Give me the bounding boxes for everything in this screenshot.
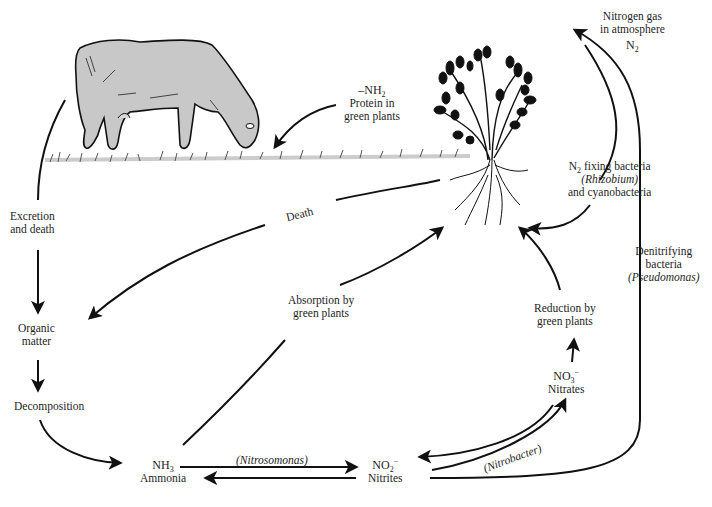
arrow-fixation-to-plant — [530, 205, 590, 228]
label-nitrogen-gas: Nitrogen gas in atmosphere N2 — [600, 10, 665, 52]
label-reduction: Reduction by green plants — [534, 302, 596, 328]
label-pseudomonas: (Pseudomonas) — [628, 271, 700, 283]
arrow-decomposition-to-ammonia — [40, 420, 120, 463]
label-text: Protein in — [344, 97, 400, 110]
label-text: Organic — [18, 322, 55, 335]
label-text: Excretion — [10, 210, 55, 223]
label-text: Nitrates — [548, 383, 584, 396]
formula-no3: NO3− — [548, 370, 584, 383]
label-text: and death — [10, 223, 55, 236]
formula-nh2: –NH2 — [344, 84, 400, 97]
label-text: green plants — [344, 110, 400, 123]
arrow-death-to-organic — [90, 225, 265, 318]
arrow-nitrates-up — [572, 340, 574, 362]
arrow-reduction-to-plant — [520, 228, 560, 290]
label-text: bacteria — [628, 258, 700, 271]
label-excretion-and-death: Excretion and death — [10, 210, 55, 236]
label-text: Nitrites — [368, 472, 403, 485]
label-text: Ammonia — [140, 472, 186, 485]
legume-plant-illustration — [434, 46, 536, 225]
label-ammonia: NH3 Ammonia — [140, 459, 186, 485]
label-text: green plants — [288, 307, 354, 320]
arrow-death-right — [336, 180, 440, 200]
arrow-ammonia-to-absorption — [183, 340, 285, 445]
formula-no2: NO2− — [368, 459, 403, 472]
label-text: Denitrifying — [628, 245, 700, 258]
label-text: matter — [18, 335, 55, 348]
label-text: in atmosphere — [600, 23, 665, 36]
nitrogen-cycle-diagram: Nitrogen gas in atmosphere N2 –NH2 Prote… — [0, 0, 712, 507]
label-denitrifying-bacteria: Denitrifying bacteria (Pseudomonas) — [628, 245, 700, 284]
arrow-protein-to-cow — [275, 105, 336, 147]
label-text: green plants — [534, 315, 596, 328]
arrow-cow-to-excretion — [38, 100, 65, 200]
arrow-absorption — [340, 228, 442, 285]
diagram-artwork — [0, 0, 712, 507]
label-text: and cyanobacteria — [568, 186, 651, 199]
label-organic-matter: Organic matter — [18, 322, 55, 348]
label-rhizobium: (Rhizobium) — [581, 173, 638, 185]
label-text: Reduction by — [534, 302, 596, 315]
label-nitrosomonas: (Nitrosomonas) — [236, 454, 308, 467]
label-absorption: Absorption by green plants — [288, 294, 354, 320]
label-text: Absorption by — [288, 294, 354, 307]
formula-n2: N2 — [600, 39, 665, 52]
label-n2-fixing-bacteria: N2 fixing bacteria (Rhizobium) and cyano… — [568, 160, 651, 199]
cow-illustration — [76, 40, 259, 149]
label-nitrites: NO2− Nitrites — [368, 459, 403, 485]
label-protein: –NH2 Protein in green plants — [344, 84, 400, 123]
label-decomposition: Decomposition — [14, 400, 84, 413]
label-nitrates: NO3− Nitrates — [548, 370, 584, 396]
label-text: Nitrogen gas — [600, 10, 665, 23]
formula-nh3: NH3 — [140, 459, 186, 472]
grass-strip — [45, 149, 470, 162]
